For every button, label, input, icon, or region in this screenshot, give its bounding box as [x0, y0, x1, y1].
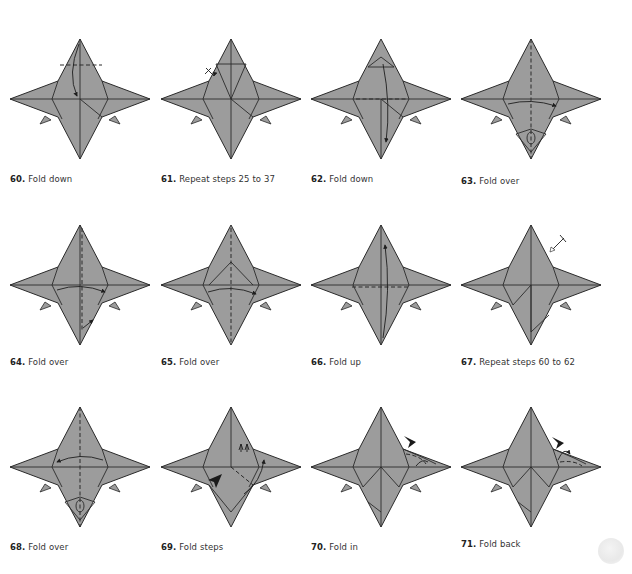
step-caption: 66. Fold up: [311, 357, 361, 367]
step-caption: 60. Fold down: [10, 174, 72, 184]
step-caption: 62. Fold down: [311, 174, 373, 184]
step-caption: 64. Fold over: [10, 357, 68, 367]
step-label: Fold over: [28, 357, 68, 367]
fold-diagram-66: [306, 220, 456, 370]
step-number: 68.: [10, 542, 25, 552]
step-69: 69. Fold steps: [156, 402, 306, 562]
push-arrow-icon: [552, 437, 564, 449]
step-70: 70. Fold in: [306, 402, 456, 562]
step-63: 63. Fold over: [456, 34, 606, 194]
step-number: 65.: [161, 357, 176, 367]
fold-diagram-62: [306, 34, 456, 184]
step-caption: 61. Repeat steps 25 to 37: [161, 174, 275, 184]
step-caption: 69. Fold steps: [161, 542, 223, 552]
fold-diagram-64: [5, 220, 155, 370]
step-label: Fold up: [329, 357, 361, 367]
step-number: 61.: [161, 174, 176, 184]
step-caption: 65. Fold over: [161, 357, 219, 367]
step-caption: 68. Fold over: [10, 542, 68, 552]
step-number: 70.: [311, 542, 326, 552]
step-caption: 71. Fold back: [461, 539, 521, 549]
fold-diagram-61: [156, 34, 306, 184]
step-label: Fold down: [329, 174, 373, 184]
step-label: Fold steps: [179, 542, 223, 552]
step-label: Fold over: [179, 357, 219, 367]
step-label: Fold over: [479, 176, 519, 186]
step-number: 71.: [461, 539, 476, 549]
step-caption: 70. Fold in: [311, 542, 358, 552]
fold-diagram-60: [5, 34, 155, 184]
step-label: Repeat steps 60 to 62: [479, 357, 575, 367]
fold-diagram-70: [306, 402, 456, 552]
step-71: 71. Fold back: [456, 402, 606, 562]
step-60: 60. Fold down: [5, 34, 155, 194]
step-61: 61. Repeat steps 25 to 37: [156, 34, 306, 194]
step-number: 63.: [461, 176, 476, 186]
step-caption: 67. Repeat steps 60 to 62: [461, 357, 575, 367]
step-67: 67. Repeat steps 60 to 62: [456, 220, 606, 380]
step-label: Fold over: [28, 542, 68, 552]
fold-diagram-68: [5, 402, 155, 552]
step-65: 65. Fold over: [156, 220, 306, 380]
step-number: 69.: [161, 542, 176, 552]
page-corner-mark-icon: [598, 538, 624, 564]
fold-diagram-69: [156, 402, 306, 552]
repeat-marker-icon: [550, 235, 566, 252]
step-number: 60.: [10, 174, 25, 184]
step-label: Fold in: [329, 542, 358, 552]
step-number: 67.: [461, 357, 476, 367]
step-66: 66. Fold up: [306, 220, 456, 380]
step-label: Fold down: [28, 174, 72, 184]
fold-diagram-67: [456, 220, 606, 370]
fold-diagram-65: [156, 220, 306, 370]
step-label: Repeat steps 25 to 37: [179, 174, 275, 184]
step-62: 62. Fold down: [306, 34, 456, 194]
step-number: 66.: [311, 357, 326, 367]
step-68: 68. Fold over: [5, 402, 155, 562]
step-number: 64.: [10, 357, 25, 367]
step-label: Fold back: [479, 539, 520, 549]
step-caption: 63. Fold over: [461, 176, 519, 186]
step-64: 64. Fold over: [5, 220, 155, 380]
fold-diagram-71: [456, 402, 606, 552]
push-arrow-icon: [404, 436, 416, 448]
fold-diagram-63: [456, 34, 606, 184]
step-number: 62.: [311, 174, 326, 184]
